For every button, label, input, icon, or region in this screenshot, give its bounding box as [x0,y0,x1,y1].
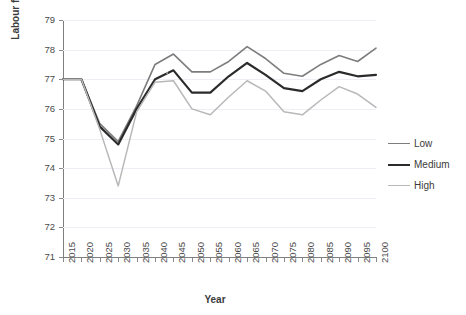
series-lines [63,20,376,257]
x-tick-mark [247,258,248,262]
x-tick-mark [284,258,285,262]
x-tick-label: 2020 [85,242,95,263]
plot-area [63,20,376,257]
x-tick-mark [192,258,193,262]
y-tick-label: 79 [33,15,55,25]
y-tick-mark [59,139,63,140]
x-tick-label: 2015 [67,242,77,263]
y-tick-mark [59,79,63,80]
x-tick-mark [376,258,377,262]
x-tick-mark [339,258,340,262]
x-tick-label: 2025 [104,242,114,263]
x-tick-label: 2040 [159,242,169,263]
x-tick-mark [229,258,230,262]
x-tick-label: 2065 [251,242,261,263]
y-tick-label: 75 [33,134,55,144]
legend-label-low: Low [414,139,432,149]
legend-label-medium: Medium [414,160,450,170]
x-tick-label: 2090 [343,242,353,263]
x-tick-label: 2075 [288,242,298,263]
x-tick-label: 2055 [214,242,224,263]
y-tick-mark [59,109,63,110]
y-tick-mark [59,168,63,169]
y-tick-label: 77 [33,74,55,84]
x-tick-mark [302,258,303,262]
x-tick-mark [118,258,119,262]
x-tick-mark [155,258,156,262]
y-tick-label: 72 [33,222,55,232]
y-tick-mark [59,227,63,228]
x-tick-label: 2100 [380,242,390,263]
legend-item-medium: Medium [388,154,450,175]
x-tick-mark [81,258,82,262]
x-tick-mark [210,258,211,262]
legend-item-low: Low [388,133,450,154]
x-tick-mark [100,258,101,262]
y-tick-label: 71 [33,252,55,262]
x-tick-label: 2080 [306,242,316,263]
y-axis-title: Labour force participation rate (%) [10,0,21,48]
x-tick-label: 2045 [177,242,187,263]
y-tick-label: 73 [33,193,55,203]
legend-label-high: High [414,181,435,191]
x-tick-label: 2035 [141,242,151,263]
y-tick-mark [59,50,63,51]
x-tick-label: 2030 [122,242,132,263]
x-tick-label: 2085 [325,242,335,263]
x-tick-label: 2050 [196,242,206,263]
x-tick-mark [63,258,64,262]
legend-swatch-low [388,143,410,144]
y-tick-label: 78 [33,45,55,55]
x-tick-mark [137,258,138,262]
y-tick-label: 76 [33,104,55,114]
chart-legend: Low Medium High [388,133,450,196]
y-tick-mark [59,198,63,199]
series-line-medium [63,63,376,144]
y-tick-label: 74 [33,163,55,173]
legend-swatch-medium [388,164,410,166]
x-tick-mark [173,258,174,262]
legend-swatch-high [388,185,410,186]
x-tick-label: 2095 [362,242,372,263]
x-tick-mark [358,258,359,262]
x-tick-label: 2060 [233,242,243,263]
x-tick-label: 2070 [270,242,280,263]
x-tick-mark [321,258,322,262]
stray-marker-dot [166,72,168,74]
x-tick-mark [266,258,267,262]
legend-item-high: High [388,175,450,196]
x-axis-title: Year [0,294,430,305]
y-tick-mark [59,20,63,21]
chart-container: Labour force participation rate (%) 7172… [0,0,466,315]
